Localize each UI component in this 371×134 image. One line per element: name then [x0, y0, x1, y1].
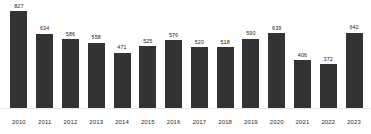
bar-group-2014[interactable]: 471: [109, 0, 135, 108]
bar-value-label: 590: [246, 30, 255, 37]
bar-rect[interactable]: [10, 11, 27, 108]
bar-rect[interactable]: [242, 39, 259, 108]
bar-value-label: 558: [92, 34, 101, 41]
bar-value-label: 518: [220, 39, 229, 46]
bar-rect[interactable]: [346, 33, 363, 108]
x-tick-2020: 2020: [264, 110, 290, 124]
x-tick-label: 2021: [296, 119, 310, 125]
x-tick-label: 2023: [347, 119, 361, 125]
x-tick-2015: 2015: [135, 110, 161, 124]
bar-group-2011[interactable]: 634: [32, 0, 58, 108]
bar-group-2021[interactable]: 406: [290, 0, 316, 108]
x-tick-label: 2017: [192, 119, 206, 125]
plot-area: 827 634 586 558 471 525: [0, 0, 371, 108]
x-tick-label: 2014: [115, 119, 129, 125]
bar-group-2013[interactable]: 558: [83, 0, 109, 108]
bar-value-label: 471: [117, 44, 126, 51]
bar-rect[interactable]: [191, 47, 208, 108]
bar-group-2022[interactable]: 372: [315, 0, 341, 108]
x-tick-label: 2011: [38, 119, 51, 125]
bar-value-label: 525: [143, 38, 152, 45]
x-tick-2021: 2021: [290, 110, 316, 124]
x-tick-label: 2015: [141, 119, 155, 125]
x-tick-label: 2010: [12, 119, 26, 125]
x-tick-label: 2018: [218, 119, 232, 125]
bar-rect[interactable]: [139, 46, 156, 108]
bar-value-label: 406: [298, 52, 307, 59]
bar-group-2023[interactable]: 642: [341, 0, 367, 108]
bar-rect[interactable]: [320, 64, 337, 108]
x-tick-2013: 2013: [83, 110, 109, 124]
bar-group-2015[interactable]: 525: [135, 0, 161, 108]
x-tick-2022: 2022: [315, 110, 341, 124]
x-tick-2014: 2014: [109, 110, 135, 124]
x-tick-2012: 2012: [58, 110, 84, 124]
x-axis-baseline: [0, 108, 371, 109]
bar-rect[interactable]: [88, 43, 105, 108]
x-tick-label: 2012: [64, 119, 78, 125]
bar-rect[interactable]: [62, 39, 79, 108]
bar-group-2019[interactable]: 590: [238, 0, 264, 108]
x-tick-2016: 2016: [161, 110, 187, 124]
bar-group-2018[interactable]: 518: [212, 0, 238, 108]
bar-value-label: 586: [66, 31, 75, 38]
x-tick-2011: 2011: [32, 110, 58, 124]
bar-rect[interactable]: [268, 33, 285, 108]
bar-chart: 827 634 586 558 471 525: [0, 0, 371, 134]
x-tick-label: 2020: [270, 119, 284, 125]
bars-container: 827 634 586 558 471 525: [6, 0, 367, 108]
bar-value-label: 827: [14, 3, 23, 10]
bar-value-label: 642: [349, 24, 358, 31]
bar-rect[interactable]: [217, 47, 234, 108]
x-tick-label: 2013: [89, 119, 103, 125]
bar-group-2010[interactable]: 827: [6, 0, 32, 108]
x-tick-2010: 2010: [6, 110, 32, 124]
x-tick-label: 2016: [167, 119, 181, 125]
bar-value-label: 634: [40, 25, 49, 32]
x-axis-labels: 2010 2011 2012 2013 2014 2015 2016 2017 …: [6, 110, 367, 124]
x-tick-label: 2019: [244, 119, 258, 125]
bar-value-label: 372: [324, 56, 333, 63]
bar-value-label: 520: [195, 39, 204, 46]
x-tick-2019: 2019: [238, 110, 264, 124]
bar-group-2020[interactable]: 639: [264, 0, 290, 108]
x-tick-label: 2022: [321, 119, 335, 125]
bar-rect[interactable]: [36, 34, 53, 108]
bar-group-2016[interactable]: 576: [161, 0, 187, 108]
x-tick-2017: 2017: [186, 110, 212, 124]
bar-group-2012[interactable]: 586: [58, 0, 84, 108]
bar-value-label: 576: [169, 32, 178, 39]
bar-group-2017[interactable]: 520: [186, 0, 212, 108]
x-tick-2018: 2018: [212, 110, 238, 124]
x-tick-2023: 2023: [341, 110, 367, 124]
bar-rect[interactable]: [165, 40, 182, 108]
bar-value-label: 639: [272, 25, 281, 32]
bar-rect[interactable]: [294, 60, 311, 108]
bar-rect[interactable]: [114, 53, 131, 108]
